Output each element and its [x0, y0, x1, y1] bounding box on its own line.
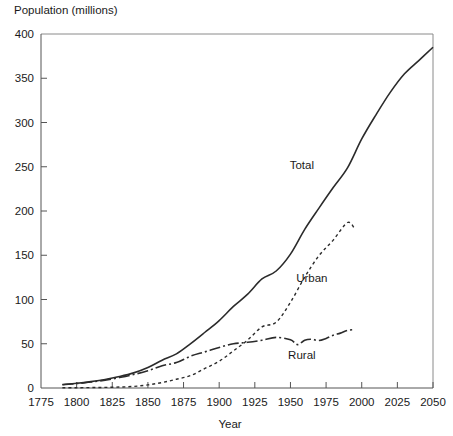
x-tick-label: 1950: [278, 396, 304, 408]
series-label-rural: Rural: [288, 349, 315, 361]
chart-canvas: Population (millions) 050100150200250300…: [0, 0, 453, 436]
y-tick-label: 100: [15, 294, 34, 306]
y-tick-label: 200: [15, 205, 34, 217]
x-tick-label: 2050: [420, 396, 446, 408]
series-annotation-labels: TotalUrbanRural: [288, 159, 327, 361]
series-label-total: Total: [290, 159, 314, 171]
series-line-urban: [62, 222, 354, 388]
x-tick-label: 1925: [242, 396, 268, 408]
y-tick-label: 400: [15, 28, 34, 40]
series-line-total: [62, 47, 433, 384]
y-axis-ticks: [41, 78, 47, 344]
y-tick-label: 150: [15, 249, 34, 261]
y-tick-label: 350: [15, 72, 34, 84]
x-tick-label: 1800: [64, 396, 90, 408]
x-tick-label: 2025: [385, 396, 411, 408]
y-tick-label: 50: [21, 338, 34, 350]
x-axis-title: Year: [218, 418, 241, 430]
x-tick-label: 1975: [313, 396, 339, 408]
plot-frame: [41, 34, 433, 388]
x-tick-label: 1900: [206, 396, 232, 408]
x-tick-label: 1875: [171, 396, 197, 408]
x-tick-label: 1825: [99, 396, 125, 408]
x-axis-tick-labels: 1775180018251850187519001925195019752000…: [28, 396, 446, 408]
x-tick-label: 1775: [28, 396, 54, 408]
y-tick-label: 250: [15, 161, 34, 173]
plot-axes: [41, 34, 433, 388]
population-line-chart: Population (millions) 050100150200250300…: [0, 0, 453, 436]
y-axis-title: Population (millions): [14, 4, 118, 16]
y-tick-label: 300: [15, 117, 34, 129]
data-series-group: [62, 47, 433, 388]
y-axis-tick-labels: 050100150200250300350400: [15, 28, 34, 394]
x-tick-label: 2000: [349, 396, 375, 408]
y-tick-label: 0: [28, 382, 34, 394]
series-label-urban: Urban: [296, 272, 327, 284]
x-tick-label: 1850: [135, 396, 161, 408]
